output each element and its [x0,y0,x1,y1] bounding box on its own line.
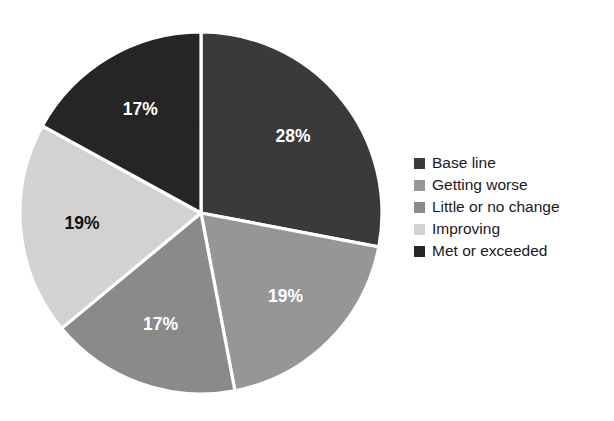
pie-slice-value-label: 19% [268,286,303,306]
legend-item-label: Met or exceeded [432,243,547,259]
legend-item-label: Base line [432,155,496,171]
pie-slice-value-label: 28% [275,126,310,146]
legend-item[interactable]: Getting worse [414,174,610,196]
pie-slice-value-label: 19% [65,213,100,233]
legend-item-label: Getting worse [432,177,528,193]
legend-swatch-icon [414,202,425,213]
legend-swatch-icon [414,246,425,257]
legend-item[interactable]: Base line [414,152,610,174]
legend-swatch-icon [414,180,425,191]
pie-chart: 28%19%17%19%17% [18,30,384,396]
legend-item[interactable]: Improving [414,218,610,240]
pie-slice-value-label: 17% [123,99,158,119]
legend-item[interactable]: Little or no change [414,196,610,218]
pie-slice-value-label: 17% [143,314,178,334]
chart-legend: Base lineGetting worseLittle or no chang… [414,152,610,262]
legend-item-label: Little or no change [432,199,560,215]
legend-swatch-icon [414,224,425,235]
pie-chart-figure: 28%19%17%19%17% Base lineGetting worseLi… [0,0,614,421]
pie-chart-svg: 28%19%17%19%17% [18,30,384,396]
legend-swatch-icon [414,158,425,169]
legend-item[interactable]: Met or exceeded [414,240,610,262]
legend-item-label: Improving [432,221,500,237]
